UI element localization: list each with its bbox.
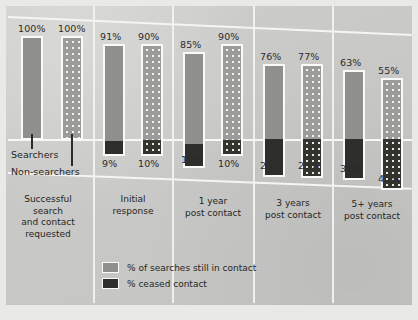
legend-swatch-light-icon xyxy=(102,262,119,273)
segment-still-in-contact xyxy=(185,54,203,144)
category-label: 3 years post contact xyxy=(254,198,332,221)
bar-value-top: 90% xyxy=(138,31,159,42)
bar-value-top: 100% xyxy=(18,23,46,34)
segment-still-in-contact xyxy=(143,46,161,140)
bar-searchers[interactable] xyxy=(21,36,43,140)
bar-non-searchers[interactable] xyxy=(221,44,243,156)
bar-value-bottom: 10% xyxy=(138,158,159,169)
group-divider-3 xyxy=(253,6,255,303)
bar-searchers[interactable] xyxy=(103,44,125,156)
segment-still-in-contact xyxy=(345,72,363,139)
bar-value-bottom: 23% xyxy=(298,160,319,171)
category-label: 5+ years post contact xyxy=(333,199,411,222)
bar-value-top: 100% xyxy=(58,23,86,34)
chart-screenshot: 100% 100% 91% 9% 90% 10% 85% 15% 90% 10%… xyxy=(0,0,418,320)
segment-ceased-contact xyxy=(143,140,161,154)
bar-value-top: 77% xyxy=(298,51,319,62)
bar-value-bottom: 10% xyxy=(218,158,239,169)
segment-still-in-contact xyxy=(105,46,123,141)
legend-item-ceased-contact[interactable]: % ceased contact xyxy=(102,278,256,289)
bar-value-top: 63% xyxy=(340,57,361,68)
bar-non-searchers[interactable] xyxy=(141,44,163,156)
annotation-non-searchers: Non-searchers xyxy=(11,166,80,177)
chart-legend: % of searches still in contact % ceased … xyxy=(102,262,256,294)
segment-still-in-contact xyxy=(23,38,41,138)
non-searchers-leader-line xyxy=(71,134,73,166)
legend-swatch-dark-icon xyxy=(102,278,119,289)
legend-label: % of searches still in contact xyxy=(127,263,256,273)
category-label: 1 year post contact xyxy=(174,196,252,219)
group-divider-2 xyxy=(172,6,174,303)
annotation-searchers: Searchers xyxy=(11,149,58,160)
bar-non-searchers[interactable] xyxy=(61,36,83,140)
bar-value-bottom: 15% xyxy=(181,154,202,165)
segment-still-in-contact xyxy=(383,80,401,139)
segment-ceased-contact xyxy=(105,141,123,154)
category-label: Initial response xyxy=(95,194,171,217)
segment-still-in-contact xyxy=(63,38,81,138)
bar-value-top: 91% xyxy=(100,31,121,42)
bar-value-top: 85% xyxy=(180,39,201,50)
segment-still-in-contact xyxy=(223,46,241,140)
segment-still-in-contact xyxy=(303,66,321,139)
group-divider-1 xyxy=(93,6,95,303)
bar-value-bottom: 24% xyxy=(260,160,281,171)
bar-value-top: 55% xyxy=(378,65,399,76)
legend-item-still-in-contact[interactable]: % of searches still in contact xyxy=(102,262,256,273)
bar-value-top: 90% xyxy=(218,31,239,42)
group-divider-4 xyxy=(332,6,334,303)
bar-value-top: 76% xyxy=(260,51,281,62)
bar-searchers[interactable] xyxy=(183,52,205,168)
bar-value-bottom: 45% xyxy=(378,173,399,184)
bar-value-bottom: 9% xyxy=(102,158,117,169)
category-label: Successful search and contact requested xyxy=(10,194,86,240)
bar-value-bottom: 37% xyxy=(340,163,361,174)
legend-label: % ceased contact xyxy=(127,279,207,289)
segment-ceased-contact xyxy=(223,140,241,154)
searchers-leader-line xyxy=(31,134,33,149)
segment-still-in-contact xyxy=(265,66,283,139)
